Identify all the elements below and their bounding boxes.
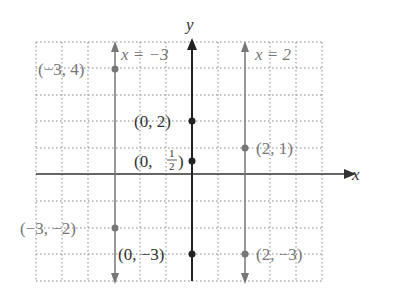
point-0-half (189, 158, 196, 165)
point-neg3-neg2 (112, 225, 119, 232)
x-axis-label: x (351, 165, 360, 184)
vertical-line-x-2 (241, 41, 249, 284)
line-label-x-2: x = 2 (254, 45, 292, 64)
svg-text:(0,: (0, (134, 152, 152, 171)
point-label-neg3-4: (−3, 4) (38, 60, 84, 79)
point-0-2 (189, 118, 196, 125)
point-label-0-neg3: (0, −3) (118, 245, 164, 264)
point-2-1 (242, 145, 249, 152)
svg-text:1: 1 (169, 147, 175, 159)
point-2-neg3 (242, 251, 249, 258)
svg-text:2: 2 (169, 160, 175, 172)
point-label-2-1: (2, 1) (256, 139, 293, 158)
coordinate-plane: x y x = −3 x = 2 (−3, 4) (−3, −2) (0, 2)… (0, 0, 393, 300)
y-axis-label: y (184, 15, 194, 34)
line-label-x-neg3: x = −3 (120, 45, 169, 64)
point-label-neg3-neg2: (−3, −2) (20, 219, 76, 238)
x-axis (36, 169, 356, 179)
point-neg3-4 (112, 66, 119, 73)
point-label-0-half: (0, 1 2 ) (134, 147, 184, 172)
point-0-neg3 (189, 251, 196, 258)
point-label-2-neg3: (2, −3) (256, 245, 302, 264)
point-label-0-2: (0, 2) (134, 112, 171, 131)
svg-text:): ) (178, 152, 184, 171)
